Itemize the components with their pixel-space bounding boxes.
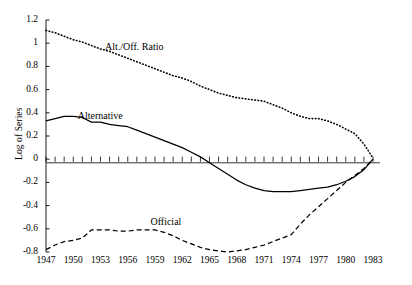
x-axis-tick-label: 1983 xyxy=(353,256,393,266)
series-label-alt-off-ratio: Alt./Off. Ratio xyxy=(105,42,163,52)
chart-series-group xyxy=(46,30,373,252)
y-axis-tick-label: 1.2 xyxy=(4,15,38,25)
x-axis-tick-marks xyxy=(46,157,373,162)
y-axis-tick-label: -0.4 xyxy=(4,201,38,211)
y-axis-tick-label: -0.6 xyxy=(4,224,38,234)
chart-axes xyxy=(46,20,380,252)
series-line-alternative xyxy=(46,116,373,191)
chart-container: 1.210.80.60.40.20-0.2-0.4-0.6-0.8 194719… xyxy=(0,0,412,285)
y-axis-title: Log of Series xyxy=(14,108,24,160)
series-line-official xyxy=(46,159,373,252)
series-label-alternative: Alternative xyxy=(78,111,123,121)
series-line-alt-off-ratio xyxy=(46,30,373,158)
y-axis-tick-label: 0.8 xyxy=(4,61,38,71)
series-label-official: Official xyxy=(150,217,181,227)
y-axis-tick-label: -0.2 xyxy=(4,177,38,187)
chart-plot-area xyxy=(0,0,412,285)
y-axis-tick-label: 1 xyxy=(4,38,38,48)
y-axis-tick-label: 0.6 xyxy=(4,85,38,95)
y-axis-tick-marks xyxy=(46,20,50,252)
